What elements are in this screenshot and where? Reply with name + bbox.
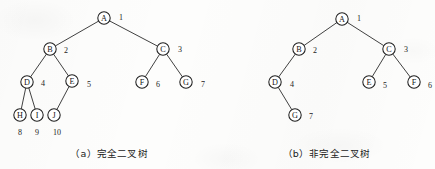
node-index-F: 6 xyxy=(428,81,432,90)
tree-edge-C-F xyxy=(393,54,410,76)
tree-edge-B-D xyxy=(31,54,46,76)
node-index-G: 7 xyxy=(201,80,205,89)
tree-edges-panel-b xyxy=(278,23,410,110)
tree-node-panel-b-C: C3 xyxy=(383,43,408,55)
caption-panel-b: （b）非完全二叉树 xyxy=(218,146,435,160)
tree-node-panel-a-I: I9 xyxy=(31,109,43,137)
tree-edges-panel-a xyxy=(21,21,182,109)
tree-edge-B-E xyxy=(54,54,69,75)
node-index-E: 5 xyxy=(383,81,387,90)
caption-panel-a: （a）完全二叉树 xyxy=(0,146,218,160)
tree-edge-C-G xyxy=(167,54,182,76)
tree-edge-A-C xyxy=(348,23,384,46)
tree-nodes-panel-a: A1B2C3D4E5F6G7H8I9J10 xyxy=(14,12,205,137)
node-letter-B: B xyxy=(47,45,53,54)
node-letter-A: A xyxy=(339,15,345,24)
tree-node-panel-a-A: A1 xyxy=(98,12,123,24)
tree-node-panel-a-H: H8 xyxy=(14,109,26,137)
node-letter-G: G xyxy=(292,111,298,120)
tree-edge-C-F xyxy=(146,55,160,77)
node-index-J: 10 xyxy=(53,128,61,137)
node-letter-F: F xyxy=(140,78,145,87)
node-letter-A: A xyxy=(101,14,107,23)
tree-node-panel-a-E: E5 xyxy=(66,75,91,89)
tree-node-panel-a-G: G7 xyxy=(180,76,205,89)
tree-edge-D-G xyxy=(278,88,291,110)
node-index-I: 9 xyxy=(35,128,39,137)
tree-node-panel-a-D: D4 xyxy=(21,76,45,88)
node-index-H: 8 xyxy=(18,128,22,137)
tree-edge-B-D xyxy=(279,54,295,76)
node-index-D: 4 xyxy=(290,80,294,89)
tree-node-panel-a-C: C3 xyxy=(157,43,182,55)
node-index-C: 3 xyxy=(404,45,408,54)
node-letter-E: E xyxy=(69,77,74,86)
node-index-A: 1 xyxy=(119,13,123,22)
tree-edge-A-B xyxy=(304,23,336,45)
tree-edge-D-I xyxy=(29,88,35,108)
tree-node-panel-b-D: D4 xyxy=(269,76,294,89)
tree-node-panel-b-F: F6 xyxy=(408,76,432,90)
node-letter-H: H xyxy=(17,111,23,120)
node-letter-C: C xyxy=(160,45,166,54)
node-letter-D: D xyxy=(272,78,278,87)
tree-node-panel-a-J: J10 xyxy=(48,109,61,137)
node-letter-F: F xyxy=(412,78,417,87)
node-letter-B: B xyxy=(296,45,302,54)
tree-node-panel-a-F: F6 xyxy=(136,76,160,89)
tree-node-panel-b-E: E5 xyxy=(363,76,387,90)
node-index-C: 3 xyxy=(178,45,182,54)
tree-node-panel-a-B: B2 xyxy=(44,43,68,55)
tree-nodes-panel-b: A1B2C3D4E5F6G7 xyxy=(269,13,432,121)
node-index-D: 4 xyxy=(41,79,45,88)
tree-edge-A-C xyxy=(110,21,157,46)
tree-edge-D-H xyxy=(21,88,25,108)
node-letter-D: D xyxy=(24,78,30,87)
node-index-E: 5 xyxy=(87,80,91,89)
tree-diagram-canvas: A1B2C3D4E5F6G7H8I9J10A1B2C3D4E5F6G7 xyxy=(0,0,435,169)
tree-edge-A-B xyxy=(56,21,99,45)
node-index-F: 6 xyxy=(156,80,160,89)
node-index-A: 1 xyxy=(357,14,361,23)
node-index-G: 7 xyxy=(309,112,313,121)
tree-edge-E-J xyxy=(57,87,69,109)
node-letter-C: C xyxy=(386,45,392,54)
node-letter-I: I xyxy=(36,111,39,120)
node-index-B: 2 xyxy=(313,46,317,55)
tree-node-panel-b-G: G7 xyxy=(289,109,313,121)
binary-tree-figure: A1B2C3D4E5F6G7H8I9J10A1B2C3D4E5F6G7 （a）完… xyxy=(0,0,435,169)
node-index-B: 2 xyxy=(64,46,68,55)
tree-edge-C-E xyxy=(372,55,385,77)
node-letter-E: E xyxy=(366,78,371,87)
node-letter-G: G xyxy=(183,78,189,87)
